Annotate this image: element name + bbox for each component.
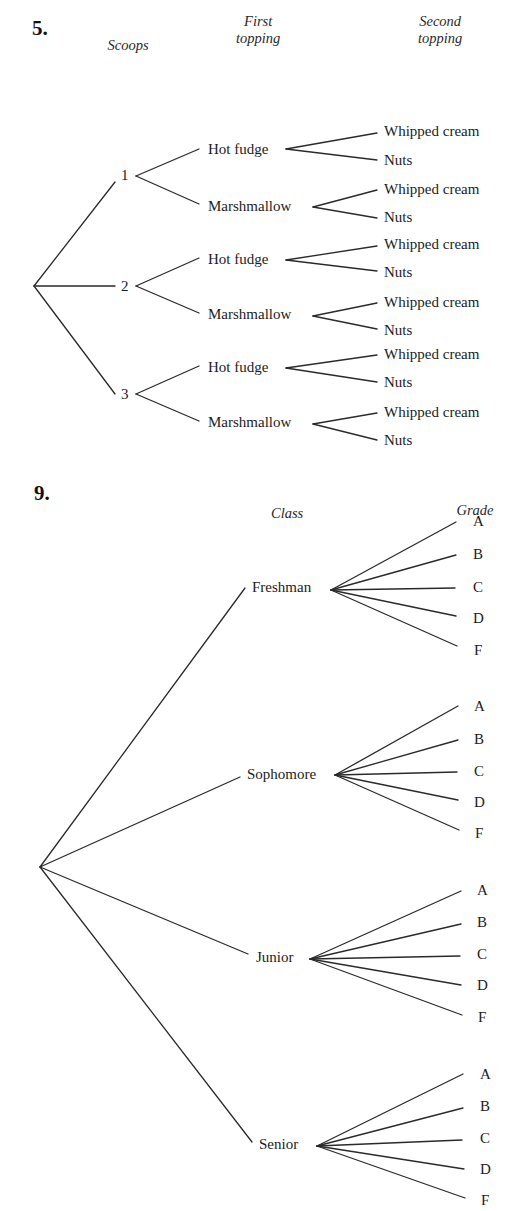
branch-scoop-to-topping	[136, 286, 199, 313]
column-header: Secondtopping	[418, 13, 462, 46]
class-node-label: Sophomore	[247, 767, 316, 782]
grade-label: C	[480, 1131, 490, 1146]
grade-label: F	[481, 1193, 489, 1208]
first-topping-label: Hot fudge	[208, 252, 268, 267]
grade-label: D	[473, 611, 484, 626]
branch-root-to-scoop	[34, 286, 115, 394]
column-header-line: First	[236, 13, 280, 30]
branch-topping-to-second	[313, 316, 377, 329]
class-node-label: Senior	[259, 1137, 298, 1152]
branch-class-to-grade	[310, 891, 461, 959]
second-topping-label: Nuts	[384, 375, 412, 390]
branch-root-to-class	[40, 588, 245, 867]
grade-label: B	[473, 547, 483, 562]
branch-class-to-grade	[335, 775, 458, 800]
grade-label: A	[473, 514, 484, 529]
branch-root-to-class	[40, 867, 252, 1142]
branch-class-to-grade	[331, 590, 456, 616]
grade-label: D	[474, 795, 485, 810]
scoop-node-label: 2	[121, 279, 129, 294]
class-node-label: Freshman	[252, 580, 311, 595]
grade-label: A	[477, 883, 488, 898]
column-header: Class	[271, 505, 303, 522]
branch-scoop-to-topping	[136, 366, 199, 394]
second-topping-label: Whipped cream	[384, 295, 479, 310]
problem-number: 5.	[32, 18, 48, 39]
grade-label: D	[480, 1162, 491, 1177]
column-header-line: Scoops	[108, 37, 149, 54]
branch-class-to-grade	[331, 522, 456, 590]
branch-class-to-grade	[317, 1146, 464, 1169]
second-topping-label: Nuts	[384, 265, 412, 280]
branch-class-to-grade	[317, 1146, 465, 1198]
branch-class-to-grade	[335, 775, 459, 830]
branch-class-to-grade	[331, 555, 456, 590]
branch-topping-to-second	[313, 190, 377, 207]
class-node-label: Junior	[256, 950, 294, 965]
grade-label: C	[474, 764, 484, 779]
branch-topping-to-second	[313, 303, 377, 316]
grade-label: F	[474, 643, 482, 658]
column-header-line: Class	[271, 505, 303, 522]
branch-class-to-grade	[310, 959, 462, 1015]
grade-label: C	[477, 947, 487, 962]
branch-scoop-to-topping	[136, 258, 199, 286]
grade-label: B	[477, 915, 487, 930]
branch-root-to-class	[40, 777, 240, 867]
branch-topping-to-second	[313, 207, 377, 218]
second-topping-label: Nuts	[384, 153, 412, 168]
first-topping-label: Marshmallow	[208, 415, 291, 430]
branch-class-to-grade	[335, 772, 457, 775]
branch-class-to-grade	[310, 924, 461, 959]
branch-scoop-to-topping	[136, 176, 199, 204]
first-topping-label: Marshmallow	[208, 199, 291, 214]
grade-label: B	[474, 732, 484, 747]
tree-diagram-page: 5.ScoopsFirsttoppingSecondtopping1Hot fu…	[0, 0, 523, 1211]
branch-topping-to-second	[313, 424, 377, 440]
grade-label: F	[475, 826, 483, 841]
scoop-node-label: 3	[121, 387, 129, 402]
problem-number: 9.	[34, 483, 50, 504]
column-header: Scoops	[108, 37, 149, 54]
branch-topping-to-second	[286, 246, 377, 260]
first-topping-label: Hot fudge	[208, 142, 268, 157]
first-topping-label: Marshmallow	[208, 307, 291, 322]
branch-class-to-grade	[335, 740, 458, 775]
grade-label: C	[473, 580, 483, 595]
branch-class-to-grade	[335, 706, 458, 775]
branch-topping-to-second	[286, 355, 377, 368]
branch-class-to-grade	[331, 588, 455, 590]
second-topping-label: Whipped cream	[384, 182, 479, 197]
branch-scoop-to-topping	[136, 149, 199, 176]
first-topping-label: Hot fudge	[208, 360, 268, 375]
branch-class-to-grade	[310, 959, 461, 985]
grade-label: B	[480, 1099, 490, 1114]
second-topping-label: Nuts	[384, 433, 412, 448]
second-topping-label: Whipped cream	[384, 237, 479, 252]
column-header: Firsttopping	[236, 13, 280, 46]
column-header-line: topping	[236, 30, 280, 47]
grade-label: A	[474, 699, 485, 714]
column-header-line: topping	[418, 30, 462, 47]
branch-class-to-grade	[317, 1074, 463, 1146]
column-header-line: Second	[418, 13, 462, 30]
branch-class-to-grade	[331, 590, 457, 646]
second-topping-label: Whipped cream	[384, 405, 479, 420]
grade-label: A	[480, 1067, 491, 1082]
branch-topping-to-second	[286, 368, 377, 382]
second-topping-label: Whipped cream	[384, 124, 479, 139]
branch-topping-to-second	[286, 149, 377, 160]
second-topping-label: Nuts	[384, 323, 412, 338]
branch-topping-to-second	[286, 260, 377, 271]
branch-root-to-class	[40, 867, 248, 954]
branch-scoop-to-topping	[136, 394, 199, 421]
branch-root-to-scoop	[34, 182, 115, 286]
branch-topping-to-second	[286, 133, 377, 149]
second-topping-label: Whipped cream	[384, 347, 479, 362]
branch-topping-to-second	[313, 413, 377, 424]
grade-label: F	[478, 1010, 486, 1025]
second-topping-label: Nuts	[384, 210, 412, 225]
grade-label: D	[477, 978, 488, 993]
branch-class-to-grade	[310, 956, 460, 959]
scoop-node-label: 1	[121, 168, 129, 183]
